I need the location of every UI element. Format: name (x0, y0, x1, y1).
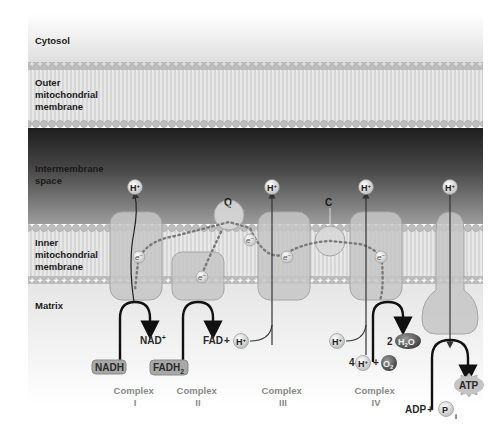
water-coefficient: 2 (387, 336, 393, 347)
electron-icon: e− (281, 251, 293, 263)
adp-label: ADP+ (405, 404, 433, 415)
phosphate-icon: P i (439, 402, 458, 421)
intermembrane-space-region (28, 128, 483, 224)
electron-icon: e− (133, 251, 145, 263)
svg-text:P: P (442, 405, 448, 415)
oxygen-molecule-icon: O2 (381, 355, 397, 371)
cytosol-region (28, 14, 483, 66)
q-label: Q (224, 197, 232, 208)
svg-text:NADH: NADH (95, 362, 124, 373)
matrix-label: Matrix (35, 300, 64, 311)
cytosol-label: Cytosol (35, 35, 70, 46)
proton-icon: H+ (128, 180, 143, 195)
svg-text:ATP: ATP (459, 380, 479, 391)
oxygen-proton-coefficient: 4 (349, 357, 355, 368)
etc-diagram: Cytosol Outer mitochondrial membrane Int… (0, 0, 503, 441)
fadh2-badge: FADH2 (150, 360, 188, 375)
fad-label: FAD+ (203, 335, 230, 346)
plus-sign: + (373, 357, 379, 368)
proton-icon: H+ (443, 180, 458, 195)
diagram-canvas: Cytosol Outer mitochondrial membrane Int… (0, 0, 503, 441)
svg-text:i: i (455, 413, 457, 420)
proton-icon: H+ (359, 180, 374, 195)
electron-icon: e− (244, 234, 256, 246)
water-molecule-icon: H2O (395, 333, 421, 349)
electron-icon: e− (196, 271, 208, 283)
nadh-badge: NADH (92, 360, 126, 374)
c-label: C (325, 197, 332, 208)
proton-icon: H+ (234, 334, 249, 349)
proton-icon: H+ (265, 180, 280, 195)
electron-icon: e− (375, 251, 387, 263)
proton-icon: H+ (330, 334, 345, 349)
proton-icon: H+ (356, 356, 371, 371)
